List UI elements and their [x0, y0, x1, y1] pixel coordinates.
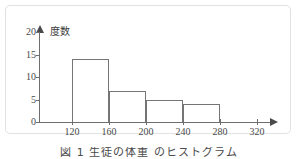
histogram-bar	[183, 104, 220, 122]
figure-caption: 図 1 生徒の体重 のヒストグラム	[0, 147, 298, 159]
x-tick-label-280: 280	[200, 127, 240, 137]
x-axis-arrow-icon	[270, 118, 278, 126]
y-tick-20	[36, 32, 40, 33]
x-tick-label-200: 200	[126, 127, 166, 137]
histogram-bar	[146, 100, 183, 123]
histogram-bar	[109, 91, 146, 123]
y-tick-10	[36, 77, 40, 78]
y-axis-title: 度数	[50, 26, 70, 37]
histogram-bar	[72, 59, 109, 122]
y-tick-5	[36, 100, 40, 101]
histogram-plot: 度数 20 15 10 5 0 120 160 200 240 280 320	[0, 0, 298, 159]
y-tick-label-15: 15	[14, 50, 36, 60]
y-tick-label-5: 5	[14, 95, 36, 105]
y-tick-label-10: 10	[14, 72, 36, 82]
x-tick-label-320: 320	[237, 127, 277, 137]
y-tick-label-20: 20	[14, 27, 36, 37]
x-tick-320	[257, 119, 258, 125]
x-tick-label-160: 160	[89, 127, 129, 137]
y-tick-15	[36, 55, 40, 56]
x-axis-line	[39, 122, 271, 123]
x-tick-label-240: 240	[163, 127, 203, 137]
figure-container: 度数 20 15 10 5 0 120 160 200 240 280 320	[0, 0, 298, 159]
x-tick-280	[220, 119, 221, 125]
x-tick-label-120: 120	[52, 127, 92, 137]
y-tick-label-0: 0	[14, 117, 36, 127]
